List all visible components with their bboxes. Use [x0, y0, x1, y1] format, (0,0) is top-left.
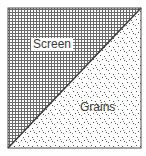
- screen-grains-diagram: [0, 0, 146, 156]
- screen-label: Screen: [31, 38, 73, 51]
- grains-label: Grains: [78, 101, 117, 114]
